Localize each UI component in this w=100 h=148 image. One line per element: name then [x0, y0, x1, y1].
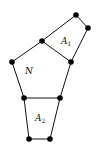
vertex-v8 [26, 136, 32, 142]
edges [12, 15, 88, 139]
vertex-v1 [73, 12, 79, 18]
vertex-v2 [85, 25, 91, 31]
region-label-a1: A1 [60, 36, 71, 47]
edge-v2-v4 [71, 28, 88, 62]
polygon-diagram: A1 N A2 [0, 0, 100, 148]
edge-v4-v7 [60, 62, 71, 98]
vertex-v3 [39, 38, 45, 44]
edge-v5-v3 [12, 41, 42, 62]
vertex-v9 [47, 136, 53, 142]
vertices [9, 12, 91, 142]
region-label-n: N [24, 66, 34, 76]
edge-v6-v8 [24, 98, 29, 139]
vertex-v6 [21, 95, 27, 101]
edge-v5-v6 [12, 62, 24, 98]
vertex-v7 [57, 95, 63, 101]
vertex-v5 [9, 59, 15, 65]
region-label-a2: A2 [34, 113, 46, 124]
vertex-v4 [68, 59, 74, 65]
edge-v7-v9 [50, 98, 60, 139]
edge-v3-v1 [42, 15, 76, 41]
